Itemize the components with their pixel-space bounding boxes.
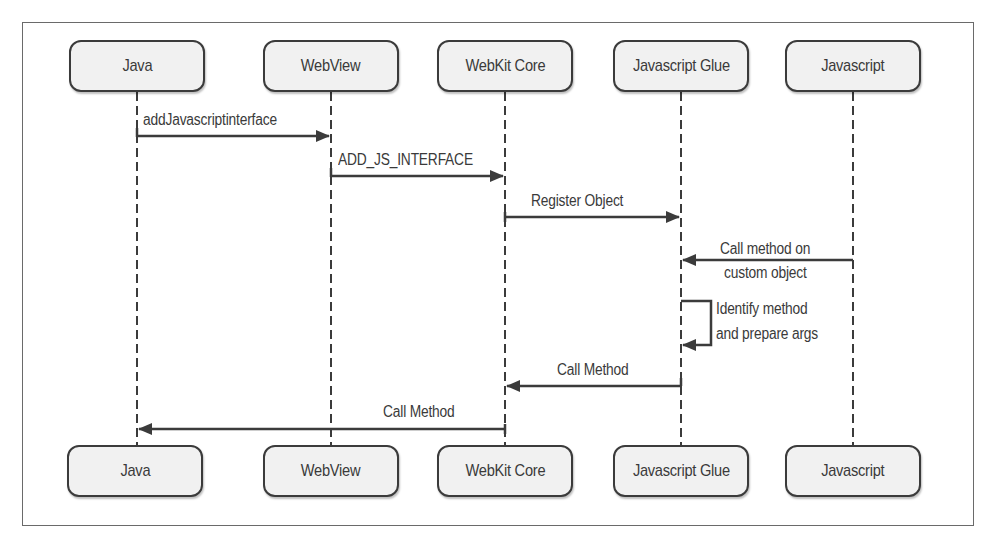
actor-webview-top: WebView: [263, 40, 399, 92]
actor-label: Java: [120, 461, 150, 481]
message-label-add-js-interface: ADD_JS_INTERFACE: [338, 150, 473, 170]
actor-webkit-core-bottom: WebKit Core: [437, 445, 573, 497]
actor-java-top: Java: [69, 40, 205, 92]
message-label-call-method-core-to-java: Call Method: [383, 402, 455, 422]
actor-javascript-glue-bottom: Javascript Glue: [613, 445, 749, 497]
actor-label: WebKit Core: [465, 56, 545, 76]
actor-javascript-glue-top: Javascript Glue: [613, 40, 749, 92]
actor-java-bottom: Java: [67, 445, 203, 497]
message-label-identify-method-line2: and prepare args: [716, 324, 818, 344]
actor-javascript-top: Javascript: [785, 40, 921, 92]
arrow-identify-method: [681, 301, 711, 345]
actor-javascript-bottom: Javascript: [785, 445, 921, 497]
actor-label: WebKit Core: [465, 461, 545, 481]
message-label-identify-method-line1: Identify method: [716, 299, 808, 319]
actor-label: Javascript Glue: [633, 56, 730, 76]
actor-webkit-core-top: WebKit Core: [437, 40, 573, 92]
message-label-call-method-on-line1: Call method on: [720, 239, 810, 259]
message-label-register-object: Register Object: [531, 191, 623, 211]
actor-label: Javascript Glue: [633, 461, 730, 481]
actor-label: Java: [122, 56, 152, 76]
actor-label: Javascript: [821, 56, 884, 76]
actor-webview-bottom: WebView: [263, 445, 399, 497]
actor-label: Javascript: [821, 461, 884, 481]
message-label-call-method-glue-to-core: Call Method: [557, 360, 629, 380]
actor-label: WebView: [301, 461, 360, 481]
message-label-add-javascript-interface: addJavascriptinterface: [143, 110, 277, 130]
message-label-call-method-on-line2: custom object: [724, 263, 807, 283]
actor-label: WebView: [301, 56, 360, 76]
